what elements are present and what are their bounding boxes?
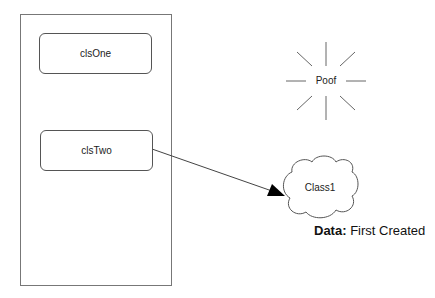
class-label: clsOne [80,48,111,59]
poof-label: Poof [306,75,346,86]
data-note-key: Data: [314,223,347,238]
class-box-clsone[interactable]: clsOne [39,33,152,74]
cloud-label: Class1 [295,182,345,193]
connector-line[interactable] [152,149,272,191]
arrowhead-icon [267,184,285,196]
class-label: clsTwo [81,145,112,156]
class-box-clstwo[interactable]: clsTwo [40,130,153,171]
data-note: Data: First Created [314,223,425,238]
data-note-value: First Created [347,223,426,238]
